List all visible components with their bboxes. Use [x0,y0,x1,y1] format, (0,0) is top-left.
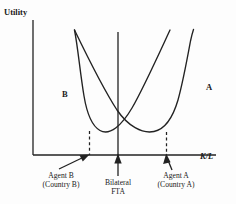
annotation-bilateral-fta-line1: Bilateral [90,178,146,187]
bilateral-fta-arrow [114,154,121,177]
curve-a [75,30,194,132]
agent-a-arrow [163,154,172,170]
annotation-agent-b: Agent B (Country B) [28,171,94,189]
curve-b-label: B [62,90,68,99]
annotation-agent-b-line2: (Country B) [28,180,94,189]
y-axis-label: Utility [4,8,27,17]
annotation-bilateral-fta: Bilateral FTA [90,178,146,196]
annotation-bilateral-fta-line2: FTA [90,187,146,196]
annotation-agent-a-line1: Agent A [140,171,212,180]
annotation-agent-a-line2: (Country A) [140,180,212,189]
annotation-agent-a: Agent A (Country A) [140,171,212,189]
utility-kl-figure: Utility K/L A B Agent B (Country B) Bila… [0,0,236,204]
agent-b-arrow [59,155,90,170]
curve-a-label: A [206,83,212,92]
x-axis-label: K/L [200,152,213,161]
annotation-agent-b-line1: Agent B [28,171,94,180]
